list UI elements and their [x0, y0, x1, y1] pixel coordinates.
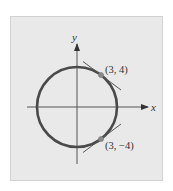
point-label-lower: (3, −4) [105, 140, 134, 152]
point-marker-lower [98, 136, 103, 141]
x-axis-label: x [150, 101, 156, 113]
diagram-canvas: x y (3, 4) (3, −4) [0, 0, 173, 191]
point-label-upper: (3, 4) [105, 64, 128, 76]
y-axis-label: y [71, 31, 77, 43]
point-marker-upper [98, 72, 103, 77]
figure: x y (3, 4) (3, −4) [0, 0, 173, 191]
